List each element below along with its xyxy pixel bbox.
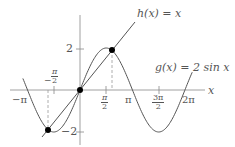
x-axis-label: x	[208, 85, 214, 96]
axis-ticks	[54, 49, 159, 132]
label-h: h(x) = x	[137, 8, 181, 19]
x-tick-half-pi: π 2	[101, 94, 108, 111]
y-tick-2: 2	[66, 43, 73, 54]
y-tick-neg2: −2	[61, 126, 77, 137]
x-tick-neg-half-pi: π 2	[51, 68, 58, 85]
label-g-prefix: g(x) = 2 sin	[155, 61, 223, 74]
intersection-point-positive	[109, 47, 115, 53]
x-tick-two-pi: 2π	[182, 95, 195, 105]
x-tick-three-half-pi: 3π 2	[152, 94, 164, 111]
label-g: g(x) = 2 sin x	[155, 62, 230, 73]
x-tick-pi: π	[125, 95, 132, 105]
label-g-var: x	[223, 61, 229, 74]
intersection-point-negative	[45, 127, 51, 133]
function-plot: h(x) = x g(x) = 2 sin x x 2 −2 −π − π 2 …	[0, 0, 235, 147]
intersection-point-origin	[77, 87, 83, 93]
x-tick-neg-pi: −π	[12, 95, 27, 105]
